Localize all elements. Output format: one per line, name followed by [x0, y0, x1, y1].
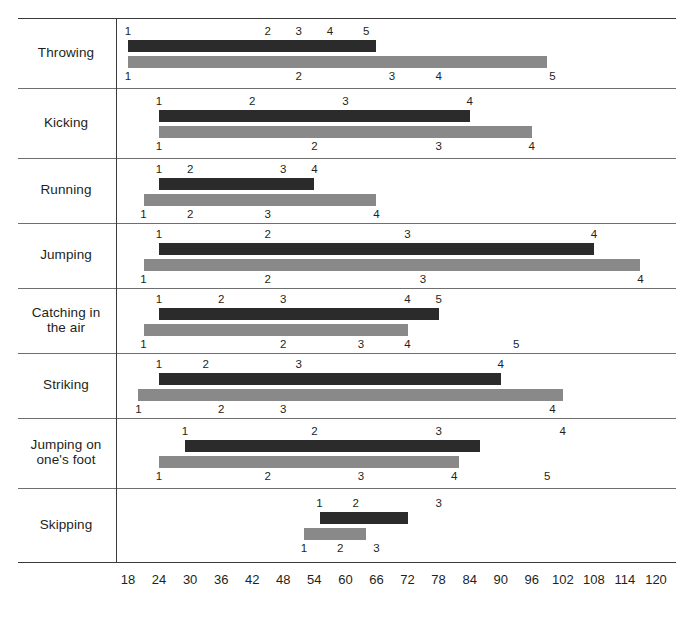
bar-grey — [144, 259, 641, 271]
x-axis-tick-label: 90 — [493, 572, 507, 588]
stage-number-label: 3 — [358, 470, 364, 482]
row-label: Jumping onone's foot — [18, 437, 114, 467]
stage-number-label: 3 — [296, 25, 302, 37]
bar-dark — [159, 373, 501, 385]
stage-number-label: 2 — [187, 208, 193, 220]
row-plot-area: 123412345 — [116, 418, 682, 488]
stage-number-label: 3 — [389, 70, 395, 82]
stage-number-label: 3 — [280, 163, 286, 175]
stage-number-label: 1 — [156, 228, 162, 240]
chart-row: Throwing1234512345 — [0, 18, 682, 88]
row-plot-area: 12341234 — [116, 88, 682, 158]
x-axis-tick-label: 66 — [369, 572, 383, 588]
stage-number-label: 3 — [358, 338, 364, 350]
row-label: Kicking — [18, 115, 114, 130]
row-label-line: Throwing — [18, 45, 114, 60]
row-label: Throwing — [18, 45, 114, 60]
stage-number-label: 4 — [498, 358, 504, 370]
row-label-line: Jumping — [18, 247, 114, 262]
x-axis-tick-label: 42 — [245, 572, 259, 588]
stage-number-label: 2 — [353, 497, 359, 509]
chart-row: Jumping12341234 — [0, 223, 682, 288]
stage-number-label: 4 — [466, 95, 472, 107]
stage-number-label: 2 — [337, 542, 343, 554]
stage-number-label: 3 — [280, 403, 286, 415]
stage-number-label: 5 — [549, 70, 555, 82]
x-axis-tick-label: 120 — [645, 572, 667, 588]
stage-number-label: 4 — [373, 208, 379, 220]
x-axis-tick-label: 72 — [400, 572, 414, 588]
x-axis-tick-label: 24 — [152, 572, 166, 588]
bar-dark — [159, 110, 470, 122]
chart-row: Jumping onone's foot123412345 — [0, 418, 682, 488]
stage-number-label: 1 — [301, 542, 307, 554]
row-label-line: Catching in — [18, 305, 114, 320]
row-plot-area: 12341234 — [116, 158, 682, 223]
row-label: Running — [18, 182, 114, 197]
stage-number-label: 2 — [265, 228, 271, 240]
stage-number-label: 1 — [140, 338, 146, 350]
x-axis-tick-label: 30 — [183, 572, 197, 588]
bar-grey — [144, 194, 377, 206]
bar-dark — [159, 243, 594, 255]
stage-number-label: 3 — [280, 293, 286, 305]
stage-number-label: 4 — [327, 25, 333, 37]
stage-number-label: 2 — [265, 273, 271, 285]
stage-number-label: 2 — [249, 95, 255, 107]
row-label: Catching inthe air — [18, 305, 114, 335]
row-label-line: Skipping — [18, 517, 114, 532]
row-plot-area: 1234512345 — [116, 18, 682, 88]
stage-number-label: 3 — [373, 542, 379, 554]
stage-number-label: 1 — [140, 273, 146, 285]
stage-number-label: 2 — [280, 338, 286, 350]
x-axis-tick-label: 96 — [525, 572, 539, 588]
row-label-line: the air — [18, 320, 114, 335]
x-axis-tick-label: 54 — [307, 572, 321, 588]
bar-grey — [144, 324, 408, 336]
stage-number-label: 1 — [156, 163, 162, 175]
x-axis-tick-label: 108 — [583, 572, 605, 588]
stage-number-label: 3 — [435, 425, 441, 437]
stage-number-label: 3 — [435, 497, 441, 509]
stage-number-label: 1 — [156, 358, 162, 370]
x-axis-tick-label: 18 — [121, 572, 135, 588]
chart-row: Running12341234 — [0, 158, 682, 223]
row-label: Skipping — [18, 517, 114, 532]
stage-number-label: 3 — [420, 273, 426, 285]
stage-number-label: 5 — [544, 470, 550, 482]
bar-grey — [159, 126, 532, 138]
row-label-line: Kicking — [18, 115, 114, 130]
stage-number-label: 5 — [435, 293, 441, 305]
stage-number-label: 1 — [156, 293, 162, 305]
stage-number-label: 4 — [549, 403, 555, 415]
stage-number-label: 2 — [218, 293, 224, 305]
x-axis-tick-label: 84 — [462, 572, 476, 588]
stage-number-label: 2 — [311, 425, 317, 437]
stage-number-label: 1 — [156, 140, 162, 152]
row-plot-area: 12341234 — [116, 223, 682, 288]
stage-number-label: 4 — [451, 470, 457, 482]
bar-dark — [320, 512, 408, 524]
x-axis-tick-label: 102 — [552, 572, 574, 588]
stage-number-label: 1 — [156, 95, 162, 107]
bar-dark — [185, 440, 480, 452]
chart-root: Throwing1234512345Kicking12341234Running… — [0, 0, 682, 620]
stage-number-label: 1 — [135, 403, 141, 415]
x-axis-tick-label: 78 — [431, 572, 445, 588]
bar-dark — [128, 40, 376, 52]
stage-number-label: 4 — [637, 273, 643, 285]
stage-number-label: 2 — [265, 470, 271, 482]
bar-grey — [128, 56, 547, 68]
stage-number-label: 2 — [311, 140, 317, 152]
x-axis-tick-label: 48 — [276, 572, 290, 588]
axis-line — [18, 562, 676, 563]
chart-row: Catching inthe air1234512345 — [0, 288, 682, 353]
stage-number-label: 4 — [435, 70, 441, 82]
stage-number-label: 4 — [591, 228, 597, 240]
row-label: Striking — [18, 377, 114, 392]
bar-grey — [304, 528, 366, 540]
stage-number-label: 4 — [529, 140, 535, 152]
stage-number-label: 4 — [311, 163, 317, 175]
stage-number-label: 1 — [125, 70, 131, 82]
stage-number-label: 2 — [265, 25, 271, 37]
